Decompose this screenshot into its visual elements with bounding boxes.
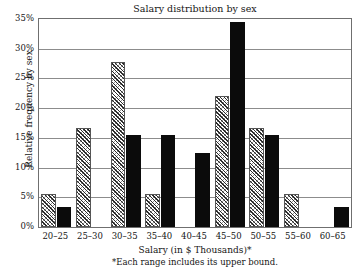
bar-solid-45-50 — [230, 22, 245, 227]
y-axis-tick-label: 25% — [0, 72, 34, 82]
bar-hatched-25-30 — [76, 128, 91, 227]
bar-solid-60-65 — [334, 207, 349, 227]
bar-hatched-20-25 — [41, 194, 56, 227]
bar-solid-30-35 — [126, 135, 141, 227]
chart-footnote: *Each range includes its upper bound. — [38, 257, 352, 267]
x-axis-tick-label: 30–35 — [112, 231, 138, 241]
y-axis-tick-label: 5% — [0, 191, 34, 201]
bar-hatched-30-35 — [111, 62, 126, 227]
x-axis-tick-label: 35–40 — [146, 231, 172, 241]
plot-area — [38, 18, 352, 228]
y-axis-tick-label: 0% — [0, 221, 34, 231]
chart-title: Salary distribution by sex — [38, 2, 352, 15]
x-axis-tick-label: 55–60 — [285, 231, 311, 241]
x-axis-tick-label: 45–50 — [216, 231, 242, 241]
y-axis-tick-label: 35% — [0, 13, 34, 23]
bar-solid-20-25 — [57, 207, 72, 227]
y-axis-tick-label: 10% — [0, 162, 34, 172]
bar-hatched-55-60 — [284, 194, 299, 227]
x-axis-tick-label: 20–25 — [42, 231, 68, 241]
x-axis-tick-label: 25–30 — [77, 231, 103, 241]
bar-solid-35-40 — [161, 135, 176, 227]
x-axis-tick-label: 40–45 — [181, 231, 207, 241]
y-axis-tick-label: 15% — [0, 132, 34, 142]
y-axis-tick-label: 30% — [0, 43, 34, 53]
bar-series-container — [39, 19, 351, 227]
x-axis-title: Salary (in $ Thousands)* — [38, 245, 352, 255]
bar-solid-40-45 — [195, 153, 210, 227]
chart-figure: Salary distribution by sex Relative freq… — [0, 0, 362, 269]
x-axis-tick-label: 50–55 — [250, 231, 276, 241]
bar-solid-50-55 — [265, 135, 280, 227]
bar-hatched-50-55 — [249, 128, 264, 227]
bar-hatched-45-50 — [215, 96, 230, 227]
x-axis-tick-label: 60–65 — [320, 231, 346, 241]
bar-hatched-35-40 — [145, 194, 160, 227]
y-axis-tick-label: 20% — [0, 102, 34, 112]
